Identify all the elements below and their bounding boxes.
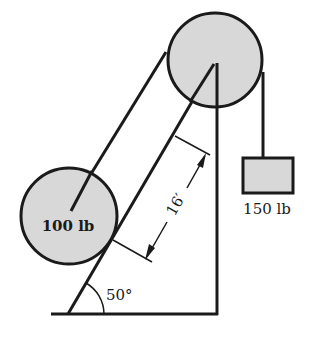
diagram-canvas: 100 lb 150 lb 16′ 50° bbox=[0, 0, 318, 342]
angle-label: 50° bbox=[106, 286, 133, 304]
pulley-incline-diagram: 100 lb 150 lb 16′ 50° bbox=[0, 0, 318, 342]
cylinder-weight-label: 100 lb bbox=[42, 217, 95, 235]
arrow-head-upper bbox=[197, 153, 206, 168]
top-pulley bbox=[168, 13, 262, 107]
dimension-label: 16′ bbox=[162, 190, 189, 219]
angle-arc bbox=[86, 283, 104, 314]
cylinder bbox=[21, 168, 117, 264]
dimension-extension-upper bbox=[175, 136, 210, 155]
hanging-block bbox=[243, 158, 293, 193]
block-weight-label: 150 lb bbox=[243, 200, 291, 218]
dimension-extension-lower bbox=[113, 240, 152, 262]
